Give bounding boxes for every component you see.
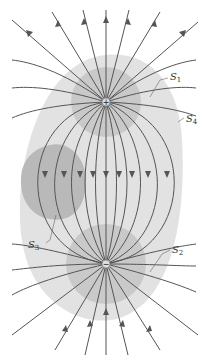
positive-charge: + [102,98,110,107]
surface-s3 [21,144,86,219]
label-s1: S1 [170,71,181,84]
svg-text:−: − [103,260,110,269]
svg-text:+: + [103,98,110,107]
diagram-canvas: + − S1 S4 S3 S2 [0,0,207,357]
field-diagram: + − S1 S4 S3 S2 [0,0,207,357]
negative-charge: − [102,260,110,269]
label-s4: S4 [186,113,198,126]
